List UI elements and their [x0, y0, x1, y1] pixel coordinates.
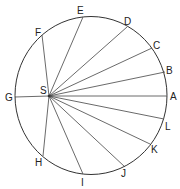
line-s-k [49, 96, 150, 144]
orbit-circle [15, 17, 167, 175]
point-label-k: K [151, 144, 158, 155]
kepler-orbit-diagram: S ABCDEFGHIJKL [0, 0, 180, 189]
point-label-a: A [170, 91, 177, 102]
line-s-l [49, 96, 164, 119]
line-s-g [15, 96, 49, 97]
point-label-g: G [5, 92, 13, 103]
point-label-j: J [121, 168, 126, 179]
line-s-h [43, 96, 49, 156]
point-label-c: C [153, 40, 160, 51]
point-label-d: D [124, 16, 131, 27]
line-s-d [49, 27, 127, 96]
point-label-e: E [77, 5, 84, 16]
focus-label: S [40, 85, 47, 96]
line-s-j [49, 96, 125, 167]
point-label-b: B [166, 65, 173, 76]
line-s-c [49, 48, 152, 96]
point-label-f: F [35, 27, 41, 38]
point-label-h: H [35, 157, 42, 168]
point-label-l: L [165, 121, 171, 132]
point-label-i: I [81, 177, 84, 188]
line-s-b [49, 72, 165, 96]
focus-point [48, 95, 51, 98]
radius-lines [15, 17, 167, 174]
line-s-e [49, 17, 83, 96]
line-s-i [49, 96, 83, 174]
